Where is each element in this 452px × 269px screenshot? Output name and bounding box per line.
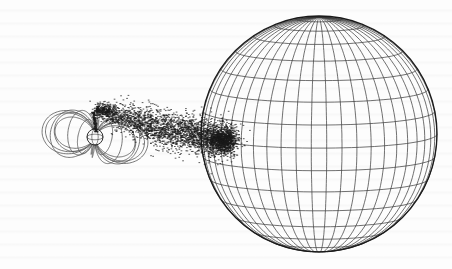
binary-star-diagram xyxy=(0,0,452,269)
accretion-stream xyxy=(90,95,251,173)
figure-canvas xyxy=(0,0,452,269)
